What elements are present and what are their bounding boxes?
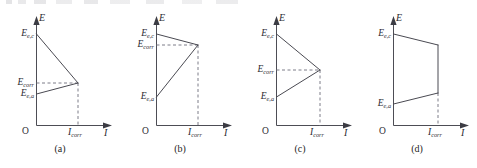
anodic-curve <box>157 45 199 97</box>
ytick-label-eec: Ee,c <box>242 29 274 39</box>
ytick-label-eea: Ee,a <box>2 89 34 99</box>
y-axis-label: E <box>279 13 285 23</box>
panel-caption-b: (b) <box>120 143 240 154</box>
panel-caption-a: (a) <box>0 143 120 154</box>
y-axis-label: E <box>159 13 165 23</box>
anodic-curve <box>394 93 439 104</box>
xtick-label-icorr: Icorr <box>188 128 202 138</box>
xtick-label-icorr: Icorr <box>310 128 324 138</box>
ytick-label-eec: Ee,c <box>2 29 34 39</box>
evans-diagram-figure: E I O Ee,c Ecorr Ee,a Icorr (a) E I O Ee… <box>0 0 477 168</box>
cathodic-curve <box>37 34 79 83</box>
panel-b: E I O Ee,c Ecorr Ee,a Icorr (b) <box>120 0 240 168</box>
xtick-label-icorr: Icorr <box>68 128 82 138</box>
ytick-label-eea: Ee,a <box>242 92 274 102</box>
anodic-curve <box>277 70 321 97</box>
ytick-label-ecorr: Ecorr <box>240 65 274 75</box>
panel-caption-d: (d) <box>357 143 477 154</box>
ytick-label-eec: Ee,c <box>359 29 391 39</box>
origin-label: O <box>379 127 386 137</box>
ytick-label-eea: Ee,a <box>359 99 391 109</box>
panel-caption-c: (c) <box>240 143 360 154</box>
cathodic-curve <box>394 34 439 45</box>
panel-a: E I O Ee,c Ecorr Ee,a Icorr (a) <box>0 0 120 168</box>
panel-d: E I O Ee,c Ee,a Icorr (d) <box>357 0 477 168</box>
origin-label: O <box>262 127 269 137</box>
y-axis-label: E <box>396 13 402 23</box>
x-axis-label: I <box>224 128 227 138</box>
anodic-curve <box>37 83 79 94</box>
ytick-label-eec: Ee,c <box>122 29 154 39</box>
ytick-label-ecorr: Ecorr <box>0 78 34 88</box>
ytick-label-eea: Ee,a <box>122 92 154 102</box>
cathodic-curve <box>277 34 321 70</box>
x-axis-label: I <box>461 128 464 138</box>
xtick-label-icorr: Icorr <box>428 128 442 138</box>
ytick-label-ecorr: Ecorr <box>120 40 154 50</box>
cathodic-curve <box>157 34 199 45</box>
x-axis-label: I <box>344 128 347 138</box>
x-axis-label: I <box>104 128 107 138</box>
origin-label: O <box>22 127 29 137</box>
origin-label: O <box>142 127 149 137</box>
panel-c: E I O Ee,c Ecorr Ee,a Icorr (c) <box>240 0 360 168</box>
y-axis-label: E <box>39 13 45 23</box>
